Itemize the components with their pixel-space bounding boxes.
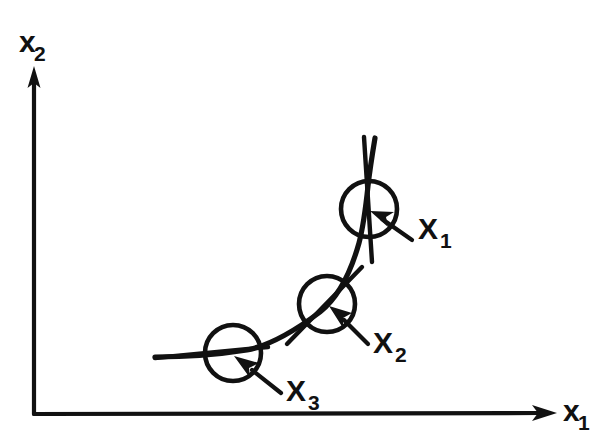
- marker-x3-pointer-shaft: [252, 370, 281, 393]
- marker-x1-label: X: [418, 212, 438, 245]
- x-axis-line: [34, 413, 540, 414]
- marker-x1-label-subscript: 1: [440, 229, 452, 252]
- marker-x2-pointer-shaft: [344, 320, 368, 344]
- marker-x2-label-subscript: 2: [395, 343, 407, 366]
- marker-x2: X 2: [287, 267, 407, 366]
- y-axis-label-subscript: 2: [34, 42, 46, 65]
- x-axis-label-subscript: 1: [578, 411, 590, 434]
- state-space-diagram: x 2 x 1 X 1 X: [0, 0, 608, 443]
- figure-canvas: x 2 x 1 X 1 X: [0, 0, 608, 443]
- axes-group: [28, 66, 558, 421]
- x-axis-label: x 1: [563, 394, 590, 434]
- marker-x3-label-subscript: 3: [308, 391, 320, 414]
- y-axis-label: x 2: [19, 25, 46, 65]
- marker-x2-label: X: [373, 326, 393, 359]
- marker-x3-label: X: [286, 374, 306, 407]
